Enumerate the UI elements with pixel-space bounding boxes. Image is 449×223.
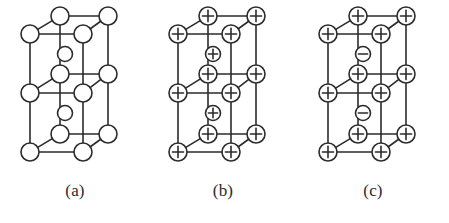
lattice-node-front-left-1 <box>319 84 337 102</box>
edge-left-depth-0 <box>186 21 201 30</box>
interstitial-node-0 <box>58 47 73 62</box>
interstitial-node-1 <box>206 106 221 121</box>
panel-c: (c) <box>298 0 448 223</box>
panel-a-label: (a) <box>0 182 150 200</box>
lattice-node-back-right-1 <box>99 65 117 83</box>
lattice-node-back-left-0 <box>349 7 367 25</box>
lattice-node-front-right-2 <box>222 143 240 161</box>
interstitial-node-0 <box>206 47 221 62</box>
lattice-node-front-left-2 <box>319 143 337 161</box>
lattice-node-front-right-0 <box>372 25 390 43</box>
panel-b-label: (b) <box>148 182 298 200</box>
lattice-node-back-left-0 <box>51 7 69 25</box>
lattice-node-front-left-0 <box>319 25 337 43</box>
panel-c-label: (c) <box>298 182 448 200</box>
edge-right-depth-0 <box>90 21 100 28</box>
edge-left-depth-2 <box>38 139 53 148</box>
edge-right-depth-2 <box>238 139 248 146</box>
lattice-node-back-right-0 <box>397 7 415 25</box>
interstitial-node-1 <box>356 106 371 121</box>
panel-c-lattice <box>298 0 448 182</box>
lattice-node-front-right-0 <box>74 25 92 43</box>
panel-a: (a) <box>0 0 150 223</box>
panel-c-nodes <box>319 7 415 161</box>
edge-left-depth-1 <box>336 79 351 88</box>
lattice-node-back-left-1 <box>51 65 69 83</box>
lattice-node-back-left-0 <box>199 7 217 25</box>
edge-left-depth-1 <box>186 79 201 88</box>
interstitial-node-1 <box>58 106 73 121</box>
lattice-node-front-right-0 <box>222 25 240 43</box>
lattice-node-front-left-1 <box>169 84 187 102</box>
lattice-node-back-right-2 <box>247 125 265 143</box>
edge-right-depth-0 <box>238 21 248 28</box>
lattice-node-front-left-0 <box>21 25 39 43</box>
lattice-node-front-right-1 <box>74 84 92 102</box>
panel-a-nodes <box>21 7 117 161</box>
panel-b-lattice <box>148 0 298 182</box>
panel-b-nodes <box>169 7 265 161</box>
lattice-node-back-left-2 <box>349 125 367 143</box>
edge-left-depth-2 <box>336 139 351 148</box>
figure-root: (a)(b)(c) <box>0 0 449 223</box>
lattice-node-back-right-2 <box>397 125 415 143</box>
lattice-node-front-right-1 <box>372 84 390 102</box>
panel-b: (b) <box>148 0 298 223</box>
edge-left-depth-2 <box>186 139 201 148</box>
edge-right-depth-2 <box>90 139 100 146</box>
edge-left-depth-1 <box>38 79 53 88</box>
edge-right-depth-0 <box>388 21 398 28</box>
lattice-node-front-right-2 <box>74 143 92 161</box>
lattice-node-back-right-1 <box>397 65 415 83</box>
lattice-node-back-right-1 <box>247 65 265 83</box>
edge-right-depth-1 <box>90 79 101 87</box>
edge-left-depth-0 <box>38 21 53 30</box>
lattice-node-front-left-1 <box>21 84 39 102</box>
lattice-node-back-right-2 <box>99 125 117 143</box>
lattice-node-back-left-1 <box>349 65 367 83</box>
lattice-node-front-left-2 <box>169 143 187 161</box>
edge-right-depth-1 <box>388 79 399 87</box>
lattice-node-front-right-1 <box>222 84 240 102</box>
lattice-node-front-right-2 <box>372 143 390 161</box>
edge-left-depth-0 <box>336 21 351 30</box>
interstitial-node-0 <box>356 47 371 62</box>
lattice-node-front-left-0 <box>169 25 187 43</box>
lattice-node-back-left-2 <box>199 125 217 143</box>
lattice-node-back-right-0 <box>247 7 265 25</box>
lattice-node-front-left-2 <box>21 143 39 161</box>
panel-a-lattice <box>0 0 150 182</box>
lattice-node-back-left-1 <box>199 65 217 83</box>
lattice-node-back-left-2 <box>51 125 69 143</box>
edge-right-depth-1 <box>238 79 249 87</box>
lattice-node-back-right-0 <box>99 7 117 25</box>
edge-right-depth-2 <box>388 139 398 146</box>
